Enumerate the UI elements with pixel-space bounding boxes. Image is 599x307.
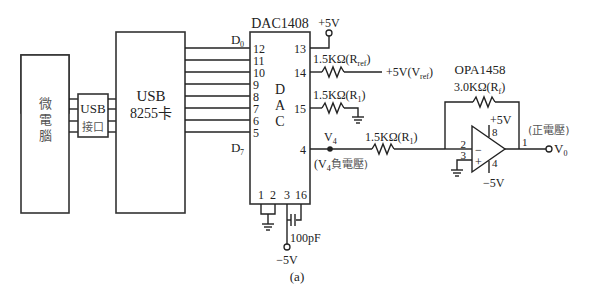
dac-inner-d: D bbox=[275, 82, 285, 97]
vref-label: +5V(Vref) bbox=[386, 65, 433, 81]
usb-interface-block: USB 接口 bbox=[78, 94, 108, 137]
ground-icon bbox=[352, 117, 364, 123]
r1-series-label: 1.5KΩ(R1) bbox=[365, 130, 418, 146]
opamp-vminus-label: −5V bbox=[483, 176, 505, 190]
output-note: (正電壓) bbox=[528, 124, 570, 137]
dac1408-chip: DAC1408 12 11 10 9 8 7 6 5 D A C 13 14 1… bbox=[250, 16, 310, 204]
dac-pin-1: 1 bbox=[258, 188, 264, 202]
usb-to-card-wires bbox=[108, 99, 116, 132]
dac-pin-4: 4 bbox=[300, 143, 306, 157]
rf-resistor-icon bbox=[473, 97, 495, 107]
v4-label: V4 bbox=[324, 130, 337, 146]
vout-label: V0 bbox=[554, 141, 567, 158]
v4-note: (V4負電壓) bbox=[314, 157, 368, 173]
dac-pin-5: 5 bbox=[253, 126, 259, 140]
cap-label: 100pF bbox=[290, 231, 321, 245]
opamp-plus-sign: + bbox=[475, 155, 482, 169]
rref-resistor-icon bbox=[322, 67, 344, 77]
opamp-opa1458: OPA1458 3.0KΩ(Rf) − + 2 3 8 4 +5V −5V 1 … bbox=[445, 62, 570, 190]
dac-inner-c: C bbox=[275, 114, 284, 129]
dac-pin-15: 15 bbox=[294, 102, 306, 116]
opamp-pin-3: 3 bbox=[461, 149, 467, 161]
dac-pin-16: 16 bbox=[295, 188, 307, 202]
usb-card-line1: USB bbox=[136, 88, 165, 104]
usb-8255-card-block: USB 8255卡 bbox=[116, 32, 185, 213]
r1-ground-resistor-icon bbox=[322, 103, 344, 113]
v4-node-dot-icon bbox=[327, 146, 333, 152]
opamp-ground-icon bbox=[451, 170, 463, 176]
r1-ground-branch: 1.5KΩ(R1) bbox=[310, 88, 366, 123]
vcc-terminal-icon bbox=[326, 30, 332, 36]
rf-label: 3.0KΩ(Rf) bbox=[454, 80, 505, 96]
dac-title: DAC1408 bbox=[251, 16, 309, 31]
usb-interface-line2: 接口 bbox=[82, 121, 104, 134]
dac-ground-icon bbox=[262, 224, 274, 230]
dac-inner-a: A bbox=[275, 98, 286, 113]
opamp-pin-1: 1 bbox=[522, 136, 528, 148]
microcomputer-char-3: 腦 bbox=[39, 128, 52, 143]
microcomputer-block: 微 電 腦 bbox=[21, 55, 69, 213]
d7-label: D bbox=[231, 140, 240, 155]
r1-series-resistor-icon bbox=[372, 144, 394, 154]
opamp-vplus-label: +5V bbox=[490, 113, 512, 127]
opamp-pin-8: 8 bbox=[492, 126, 498, 138]
vcc-connection: +5V bbox=[310, 16, 340, 48]
vout-terminal-icon bbox=[546, 146, 552, 152]
data-bus-wires bbox=[185, 48, 250, 132]
d0-label: D bbox=[231, 32, 240, 47]
rref-label: 1.5KΩ(Rref) bbox=[313, 52, 370, 68]
usb-interface-line1: USB bbox=[80, 101, 106, 116]
dac-pin-13: 13 bbox=[294, 42, 306, 56]
dac-circuit-diagram: 微 電 腦 USB 接口 USB 8255卡 D bbox=[0, 0, 599, 307]
figure-caption: (a) bbox=[290, 269, 304, 284]
dac-pin-2: 2 bbox=[270, 188, 276, 202]
d7-sub: 7 bbox=[240, 148, 244, 157]
opamp-pin-4: 4 bbox=[492, 157, 498, 169]
vcc-top-label: +5V bbox=[318, 16, 340, 30]
v4-branch: V4 1.5KΩ(R1) (V4負電壓) bbox=[310, 130, 445, 173]
dac-ground-connection bbox=[261, 204, 275, 230]
vee-label: −5V bbox=[276, 253, 298, 267]
microcomputer-char-2: 電 bbox=[39, 112, 52, 127]
dac-pin-14: 14 bbox=[294, 66, 306, 80]
micro-to-usb-wires bbox=[69, 99, 78, 132]
rref-branch: 1.5KΩ(Rref) +5V(Vref) bbox=[310, 52, 433, 81]
capacitor-icon bbox=[287, 214, 295, 226]
vee-connection: 100pF −5V bbox=[276, 204, 321, 267]
r1-ground-label: 1.5KΩ(R1) bbox=[313, 88, 366, 104]
d0-sub: 0 bbox=[240, 40, 244, 49]
usb-card-line2: 8255卡 bbox=[130, 106, 172, 121]
dac-pin-3: 3 bbox=[284, 188, 290, 202]
microcomputer-char-1: 微 bbox=[39, 96, 52, 111]
opamp-title: OPA1458 bbox=[455, 62, 506, 77]
